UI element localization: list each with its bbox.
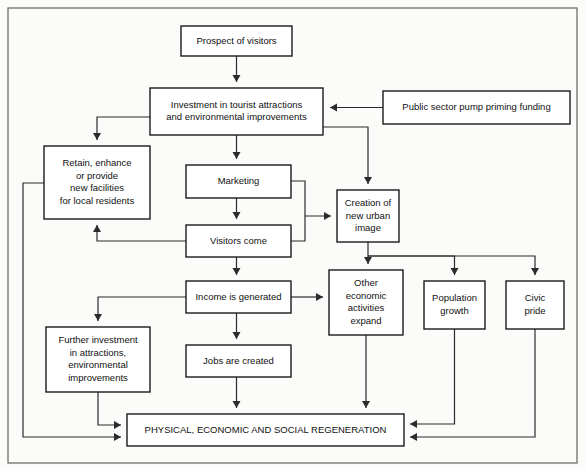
node-public-sector-pump-priming-funding[interactable]: Public sector pump priming funding — [383, 91, 570, 124]
node-label-line: expand — [350, 315, 381, 326]
node-label-line: Marketing — [218, 175, 260, 186]
node-label-line: Prospect of visitors — [196, 35, 276, 46]
node-label-line: economic — [346, 290, 387, 301]
flowchart-diagram: Prospect of visitorsInvestment in touris… — [0, 0, 585, 471]
node-income-is-generated[interactable]: Income is generated — [186, 281, 291, 313]
node-label-line: or provide — [76, 170, 118, 181]
node-physical-economic-and-social-regeneration[interactable]: PHYSICAL, ECONOMIC AND SOCIAL REGENERATI… — [127, 414, 404, 446]
node-label-line: pride — [524, 305, 545, 316]
node-civic-pride[interactable]: Civicpride — [506, 281, 564, 329]
node-label-line: Investment in tourist attractions — [171, 99, 303, 110]
node-label-line: Public sector pump priming funding — [402, 101, 550, 112]
node-label-line: Visitors come — [210, 235, 267, 246]
node-label-line: Further investment — [58, 334, 138, 345]
node-label-line: for local residents — [60, 195, 135, 206]
node-retain-enhance-or-provide-new-facilities[interactable]: Retain, enhanceor providenew facilitiesf… — [44, 146, 150, 219]
node-label-line: Income is generated — [195, 291, 281, 302]
node-visitors-come[interactable]: Visitors come — [186, 225, 291, 257]
node-label-line: Jobs are created — [203, 355, 274, 366]
node-label-line: Civic — [525, 292, 546, 303]
node-label-line: PHYSICAL, ECONOMIC AND SOCIAL REGENERATI… — [145, 424, 387, 435]
node-label-line: Population — [432, 292, 477, 303]
node-investment-in-tourist-attractions[interactable]: Investment in tourist attractionsand env… — [150, 88, 323, 135]
node-creation-of-new-urban-image[interactable]: Creation ofnew urbanimage — [337, 190, 399, 242]
node-label-line: activities — [348, 302, 385, 313]
node-population-growth[interactable]: Populationgrowth — [424, 281, 485, 329]
page-background — [0, 0, 585, 471]
node-marketing[interactable]: Marketing — [186, 165, 291, 198]
node-label-line: improvements — [68, 372, 128, 383]
node-label-line: environmental — [68, 359, 128, 370]
node-label-line: Creation of — [345, 197, 392, 208]
node-label-line: Other — [354, 277, 378, 288]
node-other-economic-activities-expand[interactable]: Othereconomicactivitiesexpand — [329, 270, 403, 335]
node-label-line: in attractions, — [70, 347, 127, 358]
node-label-line: growth — [440, 305, 469, 316]
node-label-line: and environmental improvements — [166, 111, 307, 122]
node-label-line: new facilities — [70, 182, 124, 193]
flowchart-canvas: Prospect of visitorsInvestment in touris… — [0, 0, 585, 471]
node-label-line: Retain, enhance — [62, 157, 131, 168]
node-further-investment-in-attractions[interactable]: Further investmentin attractions,environ… — [46, 327, 150, 392]
node-label-line: new urban — [346, 210, 390, 221]
node-prospect-of-visitors[interactable]: Prospect of visitors — [181, 26, 292, 56]
node-jobs-are-created[interactable]: Jobs are created — [186, 345, 291, 377]
node-label-line: image — [355, 222, 381, 233]
